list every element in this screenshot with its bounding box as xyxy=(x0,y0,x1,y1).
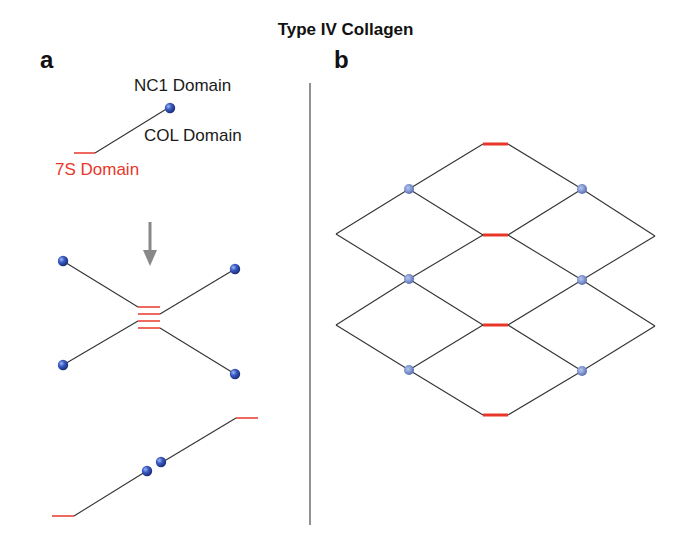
nc1-node-icon xyxy=(58,256,68,266)
nc1-junctions xyxy=(404,184,587,376)
7s-junctions xyxy=(483,144,508,415)
nc1-dimer xyxy=(52,418,258,516)
7s-tetramer xyxy=(58,256,240,379)
nc1-node-icon xyxy=(156,457,166,467)
nc1-node-icon xyxy=(577,366,587,376)
nc1-node-icon xyxy=(58,360,68,370)
collagen-network-lattice xyxy=(336,144,655,415)
nc1-node-icon xyxy=(165,103,175,113)
nc1-node-icon xyxy=(230,369,240,379)
collagen-monomer xyxy=(74,103,175,153)
nc1-node-icon xyxy=(142,466,152,476)
nc1-node-icon xyxy=(577,275,587,285)
nc1-node-icon xyxy=(230,264,240,274)
nc1-node-icon xyxy=(577,184,587,194)
nc1-node-icon xyxy=(404,184,414,194)
down-arrow-icon xyxy=(143,222,157,266)
diagram-canvas xyxy=(0,0,691,542)
nc1-node-icon xyxy=(404,365,414,375)
nc1-node-icon xyxy=(404,274,414,284)
